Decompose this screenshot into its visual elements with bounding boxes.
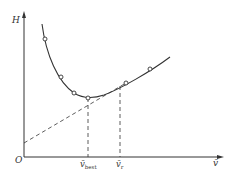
marker-point	[43, 37, 47, 41]
h-curve	[42, 24, 170, 97]
marker-point	[59, 75, 63, 79]
marker-point	[72, 91, 76, 95]
y-axis-arrow-icon	[22, 11, 26, 18]
v-best-sub: best	[85, 164, 98, 170]
x-axis-label: v̄	[213, 158, 218, 168]
y-axis-label: H	[11, 15, 20, 25]
v-r-label: v̄r	[116, 159, 124, 170]
data-markers	[43, 37, 152, 100]
diagram-canvas: H O v̄ v̄best v̄r	[0, 0, 234, 181]
origin-label: O	[15, 155, 23, 165]
v-r-sub: r	[121, 164, 124, 170]
marker-point	[124, 81, 128, 85]
marker-point	[86, 96, 90, 100]
marker-point	[148, 67, 152, 71]
v-best-label: v̄best	[80, 159, 97, 170]
